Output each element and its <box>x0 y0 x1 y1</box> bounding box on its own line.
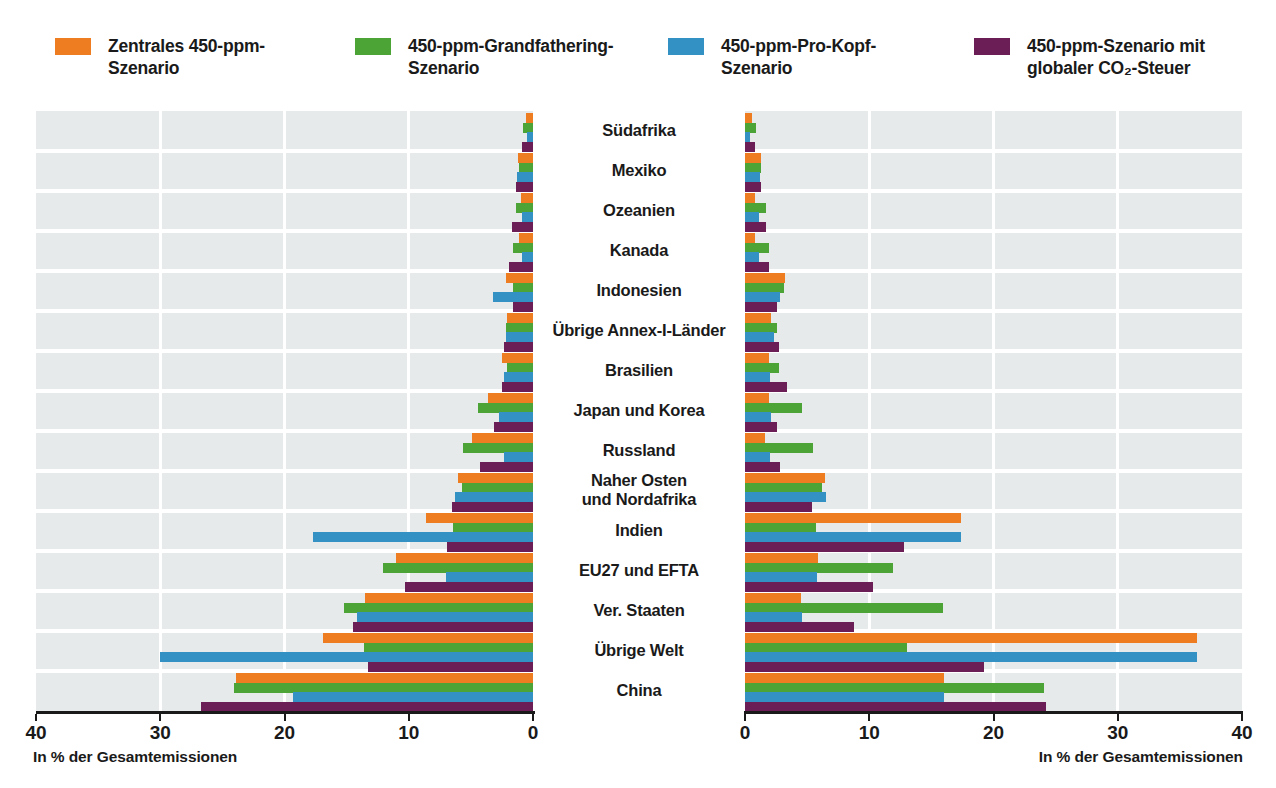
bar <box>519 233 533 243</box>
bar <box>396 553 533 563</box>
bar <box>745 283 784 293</box>
bar <box>745 473 825 483</box>
bar <box>745 142 755 152</box>
axis-tick-label: 10 <box>398 722 419 744</box>
bar <box>499 412 533 422</box>
bar <box>745 563 893 573</box>
bar <box>364 643 533 653</box>
bar <box>513 243 533 253</box>
bar <box>509 262 533 272</box>
bar <box>507 313 533 323</box>
bar <box>745 673 944 683</box>
bar <box>463 443 533 453</box>
bar <box>745 662 984 672</box>
bar <box>745 683 1044 693</box>
bar <box>745 643 907 653</box>
bar <box>502 382 533 392</box>
bar <box>527 132 533 142</box>
bar <box>523 123 533 133</box>
bar <box>745 492 826 502</box>
bar <box>513 283 533 293</box>
bar <box>478 403 533 413</box>
bar <box>745 243 769 253</box>
gridline-30 <box>1116 111 1119 711</box>
chart-legend: Zentrales 450-ppm- Szenario 450-ppm-Gran… <box>0 0 1276 104</box>
bar <box>745 612 802 622</box>
category-label: Indien <box>538 521 740 540</box>
bar <box>521 193 533 203</box>
bar <box>494 422 533 432</box>
bar <box>745 393 769 403</box>
bar <box>745 132 750 142</box>
bar <box>745 332 774 342</box>
bar <box>745 182 761 192</box>
axis-tick <box>1117 714 1119 721</box>
bar <box>745 323 777 333</box>
bar <box>405 582 533 592</box>
bar <box>745 483 822 493</box>
bar <box>506 323 533 333</box>
bar <box>522 252 533 262</box>
bar <box>745 153 761 163</box>
bar <box>745 622 854 632</box>
category-label: China <box>538 681 740 700</box>
bar <box>519 163 533 173</box>
category-label: EU27 und EFTA <box>538 561 740 580</box>
bar <box>344 603 533 613</box>
category-label: Russland <box>538 441 740 460</box>
bar <box>745 502 812 512</box>
bar <box>745 193 755 203</box>
bar <box>506 332 533 342</box>
bar <box>201 702 533 712</box>
bar <box>488 393 533 403</box>
bar <box>745 123 756 133</box>
bar <box>365 593 533 603</box>
axis-tick-label: 30 <box>1107 722 1128 744</box>
legend-swatch-icon <box>974 38 1010 55</box>
bar <box>452 502 533 512</box>
legend-item-450-ppm-grandfathering-szenario: 450-ppm-Grandfathering- Szenario <box>355 35 613 79</box>
axis-tick-label: 30 <box>150 722 171 744</box>
gridline-20 <box>283 111 286 711</box>
bar <box>236 673 533 683</box>
axis-tick <box>532 714 534 721</box>
bar <box>745 412 771 422</box>
bar <box>517 172 533 182</box>
bar <box>526 113 533 123</box>
chart-page: Zentrales 450-ppm- Szenario 450-ppm-Gran… <box>0 0 1276 788</box>
category-label: Ozeanien <box>538 201 740 220</box>
bar <box>504 372 533 382</box>
bar <box>745 593 801 603</box>
bar <box>745 633 1197 643</box>
axis-tick-label: 0 <box>528 722 539 744</box>
bar <box>353 622 533 632</box>
bar <box>504 342 533 352</box>
axis-tick-label: 40 <box>25 722 46 744</box>
bar <box>745 113 752 123</box>
bar <box>516 182 533 192</box>
bar <box>745 403 802 413</box>
bar <box>507 363 533 373</box>
bar <box>745 422 777 432</box>
axis-tick <box>408 714 410 721</box>
bar <box>453 523 533 533</box>
category-label: Übrige Annex-I-Länder <box>538 321 740 340</box>
axis-tick <box>868 714 870 721</box>
axis-tick <box>1241 714 1243 721</box>
bar <box>323 633 533 643</box>
chart-panel-left <box>36 111 533 711</box>
axis-tick <box>744 714 746 721</box>
legend-swatch-icon <box>355 38 391 55</box>
legend-label: 450-ppm-Pro-Kopf- Szenario <box>721 35 876 79</box>
bar <box>745 532 961 542</box>
gridline-30 <box>159 111 162 711</box>
category-label: Kanada <box>538 241 740 260</box>
axis-tick-label: 20 <box>274 722 295 744</box>
bar <box>745 513 961 523</box>
bar <box>447 542 533 552</box>
bar <box>745 313 771 323</box>
bar <box>745 163 761 173</box>
bar <box>516 203 533 213</box>
plot-area-right <box>745 111 1242 711</box>
bar <box>745 233 755 243</box>
